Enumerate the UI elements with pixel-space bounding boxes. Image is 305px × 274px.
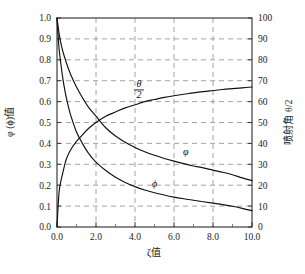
- y2-tick-label: 50: [258, 118, 268, 128]
- y2-tick-label: 70: [258, 76, 268, 86]
- y2-tick-label: 100: [258, 13, 273, 23]
- y-tick-label: 0.3: [39, 160, 51, 170]
- x-axis-title: ζ值: [147, 246, 161, 259]
- x-tick-label: 2.0: [90, 232, 102, 242]
- y2-tick-label: 20: [258, 181, 268, 191]
- y-tick-label: 0.0: [39, 222, 51, 232]
- y2-tick-label: 90: [258, 34, 268, 44]
- curve-label-varphi: φ: [183, 146, 189, 157]
- x-tick-label: 0.0: [51, 232, 63, 242]
- curve-label-theta-numerator: θ: [136, 78, 141, 89]
- y-tick-label: 0.9: [39, 34, 51, 44]
- phi-theta-line-chart: θ2φϕ 0.02.04.06.08.010.0 0.00.10.20.30.4…: [0, 0, 305, 274]
- x-tick-label: 4.0: [129, 232, 141, 242]
- chart-figure: θ2φϕ 0.02.04.06.08.010.0 0.00.10.20.30.4…: [0, 0, 305, 274]
- y2-axis-tick-labels: 0102030405060708090100: [258, 13, 273, 232]
- x-axis-tick-labels: 0.02.04.06.08.010.0: [51, 232, 261, 242]
- y2-tick-label: 10: [258, 202, 268, 212]
- y-tick-label: 0.5: [39, 118, 51, 128]
- y-tick-label: 0.1: [39, 202, 51, 212]
- x-tick-label: 8.0: [207, 232, 219, 242]
- y-tick-label: 1.0: [39, 13, 51, 23]
- y-tick-label: 0.6: [39, 97, 51, 107]
- y2-tick-label: 80: [258, 55, 268, 65]
- y2-tick-label: 30: [258, 160, 268, 170]
- gridlines: [57, 18, 252, 227]
- y2-tick-label: 0: [258, 222, 263, 232]
- y2-tick-label: 40: [258, 139, 268, 149]
- y-tick-label: 0.2: [39, 181, 51, 191]
- y-tick-label: 0.7: [39, 76, 51, 86]
- y-tick-label: 0.8: [39, 55, 51, 65]
- y2-tick-label: 60: [258, 97, 268, 107]
- curve-label-theta-denominator: 2: [136, 89, 141, 100]
- y2-axis-title: 喷射角 θ/2: [283, 99, 294, 144]
- curve-label-phi: ϕ: [152, 178, 157, 189]
- y-axis-tick-labels: 0.00.10.20.30.40.50.60.70.80.91.0: [39, 13, 51, 232]
- y-axis-title: φ (ϕ)值: [3, 107, 16, 137]
- x-tick-label: 6.0: [168, 232, 180, 242]
- y-tick-label: 0.4: [39, 139, 51, 149]
- x-tick-label: 10.0: [244, 232, 261, 242]
